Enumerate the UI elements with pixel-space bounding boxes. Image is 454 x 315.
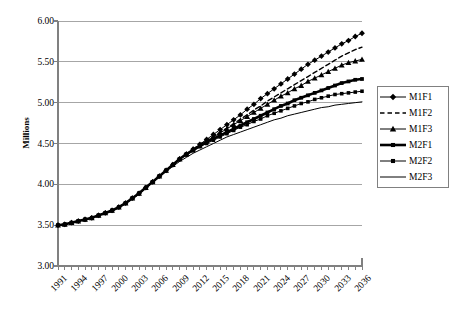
legend-label: M1F1 (407, 92, 432, 102)
legend-item-m1f2[interactable]: M1F2 (378, 105, 448, 121)
legend-swatch-m1f2 (379, 106, 407, 120)
legend-label: M1F2 (407, 108, 432, 118)
legend-item-m2f2[interactable]: M2F2 (378, 153, 448, 169)
series-m1f2 (58, 47, 362, 225)
axis-lines (54, 21, 362, 270)
legend-swatch-m1f3 (379, 122, 407, 136)
series-m2f2 (56, 89, 364, 227)
legend-item-m1f1[interactable]: M1F1 (378, 89, 448, 105)
legend-swatch-m1f1 (379, 90, 407, 104)
series-m2f3 (58, 102, 362, 225)
legend-label: M2F1 (407, 140, 432, 150)
series-m1f1 (55, 30, 365, 228)
legend-swatch-m2f1 (379, 138, 407, 152)
legend-swatch-m2f3 (379, 170, 407, 184)
gridlines (58, 21, 362, 266)
line-chart: Millions 6.005.505.004.504.003.503.00 19… (0, 0, 454, 315)
legend-item-m2f3[interactable]: M2F3 (378, 169, 448, 185)
legend-item-m1f3[interactable]: M1F3 (378, 121, 448, 137)
legend: M1F1M1F2M1F3M2F1M2F2M2F3 (377, 86, 449, 188)
series-m2f1 (56, 77, 364, 227)
legend-label: M1F3 (407, 124, 432, 134)
legend-item-m2f1[interactable]: M2F1 (378, 137, 448, 153)
legend-label: M2F2 (407, 156, 432, 166)
legend-label: M2F3 (407, 172, 432, 182)
legend-swatch-m2f2 (379, 154, 407, 168)
